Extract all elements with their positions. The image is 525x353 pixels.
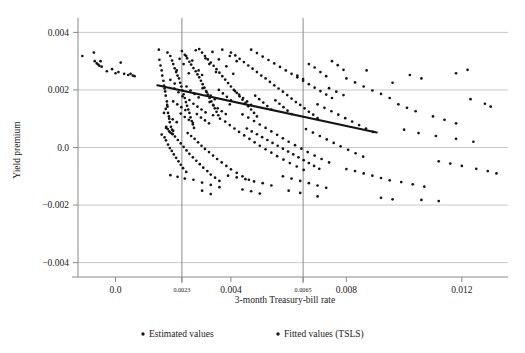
data-point	[93, 60, 96, 63]
data-point	[99, 60, 102, 63]
data-point	[295, 101, 298, 104]
data-point	[224, 113, 227, 116]
data-point	[319, 71, 322, 74]
data-point	[365, 69, 368, 72]
data-point	[215, 68, 218, 71]
data-point	[312, 113, 315, 116]
data-point	[165, 139, 168, 142]
data-point	[176, 176, 179, 179]
data-point	[484, 102, 487, 105]
data-point	[302, 169, 305, 172]
x-tick-label-2: 0.004	[220, 285, 242, 295]
scatter-plot-canvas: 0.0040.0020.0−0.002−0.004 0.00.00230.004…	[0, 0, 525, 353]
data-point	[212, 64, 215, 67]
legend-marker-0	[141, 332, 144, 335]
data-point	[123, 72, 126, 75]
data-point	[193, 138, 196, 141]
data-point	[181, 50, 184, 53]
data-point	[253, 180, 256, 183]
data-point	[221, 48, 224, 51]
data-point	[316, 103, 319, 106]
data-point	[188, 60, 191, 63]
data-point	[261, 136, 264, 139]
data-point	[354, 81, 357, 84]
data-point	[178, 58, 181, 61]
data-point	[273, 84, 276, 87]
data-point	[175, 157, 178, 160]
data-point	[475, 167, 478, 170]
data-point	[179, 142, 182, 145]
data-point	[284, 69, 287, 72]
data-point	[169, 174, 172, 177]
data-point	[286, 94, 289, 97]
data-point	[297, 156, 300, 159]
data-point	[164, 108, 167, 111]
data-point	[219, 117, 222, 120]
data-point	[216, 158, 219, 161]
data-point	[164, 90, 167, 93]
data-point	[347, 148, 350, 151]
data-point	[362, 155, 365, 158]
chart-legend: Estimated valuesFitted values (TSLS)	[141, 329, 363, 340]
data-point	[192, 156, 195, 159]
data-point	[489, 105, 492, 108]
data-point	[308, 162, 311, 165]
data-point	[320, 158, 323, 161]
data-point	[342, 94, 345, 97]
data-point	[171, 59, 174, 62]
data-point	[282, 147, 285, 150]
data-point	[177, 139, 180, 142]
data-point	[197, 141, 200, 144]
data-point	[211, 51, 214, 54]
x-tick-label-0: 0.0	[110, 285, 122, 295]
data-point	[276, 144, 279, 147]
data-point	[174, 135, 177, 138]
data-point	[308, 63, 311, 66]
data-point	[187, 108, 190, 111]
data-point	[238, 93, 241, 96]
data-point	[180, 106, 183, 109]
data-point	[215, 110, 218, 113]
data-point	[179, 112, 182, 115]
data-point	[266, 139, 269, 142]
gridlines	[78, 32, 508, 262]
data-point	[420, 199, 423, 202]
data-point	[217, 58, 220, 61]
data-point	[202, 166, 205, 169]
data-point	[258, 98, 261, 101]
data-point	[127, 74, 130, 77]
data-point	[250, 130, 253, 133]
data-point	[308, 182, 311, 185]
data-point	[168, 115, 171, 118]
data-point	[254, 94, 257, 97]
legend-label-0: Estimated values	[149, 329, 214, 339]
data-point	[432, 115, 435, 118]
data-point	[164, 94, 167, 97]
data-point	[204, 111, 207, 114]
data-point	[270, 130, 273, 133]
data-point	[469, 98, 472, 101]
data-point	[380, 197, 383, 200]
data-point	[190, 63, 193, 66]
data-point	[222, 92, 225, 95]
data-point	[287, 150, 290, 153]
data-point	[302, 78, 305, 81]
data-point	[227, 174, 230, 177]
data-point	[168, 117, 171, 120]
data-point	[204, 57, 207, 60]
data-point	[93, 51, 96, 54]
data-point	[299, 180, 302, 183]
data-point	[217, 114, 220, 117]
data-point	[165, 125, 168, 128]
data-point	[179, 163, 182, 166]
data-point	[455, 122, 458, 125]
data-point	[162, 79, 165, 82]
data-point	[166, 51, 169, 54]
data-point	[246, 100, 249, 103]
data-point	[332, 142, 335, 145]
data-point	[185, 149, 188, 152]
data-point	[325, 75, 328, 78]
data-point	[230, 168, 233, 171]
data-point	[443, 119, 446, 122]
data-point	[241, 113, 244, 116]
